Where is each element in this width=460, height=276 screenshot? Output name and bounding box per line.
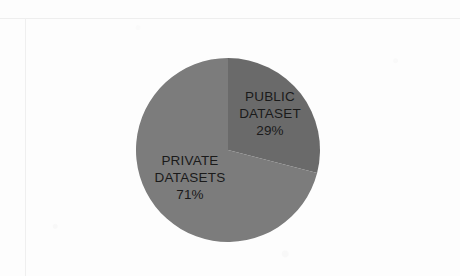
pie-label-private-value: 71% [142,186,238,203]
pie-label-private-line2: DATASETS [142,169,238,186]
pie-label-public-line1: PUBLIC [228,88,312,105]
pie-chart: PUBLIC DATASET 29% PRIVATE DATASETS 71% [0,0,460,276]
pie-label-private-line1: PRIVATE [142,152,238,169]
pie-label-public-line2: DATASET [228,105,312,122]
pie-label-public-dataset: PUBLIC DATASET 29% [228,88,312,139]
chart-page: PUBLIC DATASET 29% PRIVATE DATASETS 71% [0,0,460,276]
pie-label-public-value: 29% [228,122,312,139]
pie-label-private-datasets: PRIVATE DATASETS 71% [142,152,238,203]
